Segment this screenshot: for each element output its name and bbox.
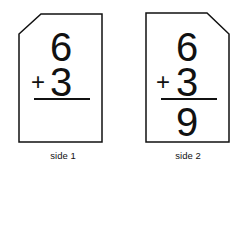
plus-sign: + xyxy=(156,70,170,94)
caption: side 2 xyxy=(148,151,228,161)
caption: side 1 xyxy=(23,151,103,161)
plus-sign: + xyxy=(31,70,45,94)
sum-line xyxy=(34,98,90,100)
bottom-number: 3 xyxy=(50,62,72,102)
answer-number: 9 xyxy=(176,102,198,142)
bottom-number: 3 xyxy=(176,62,198,102)
